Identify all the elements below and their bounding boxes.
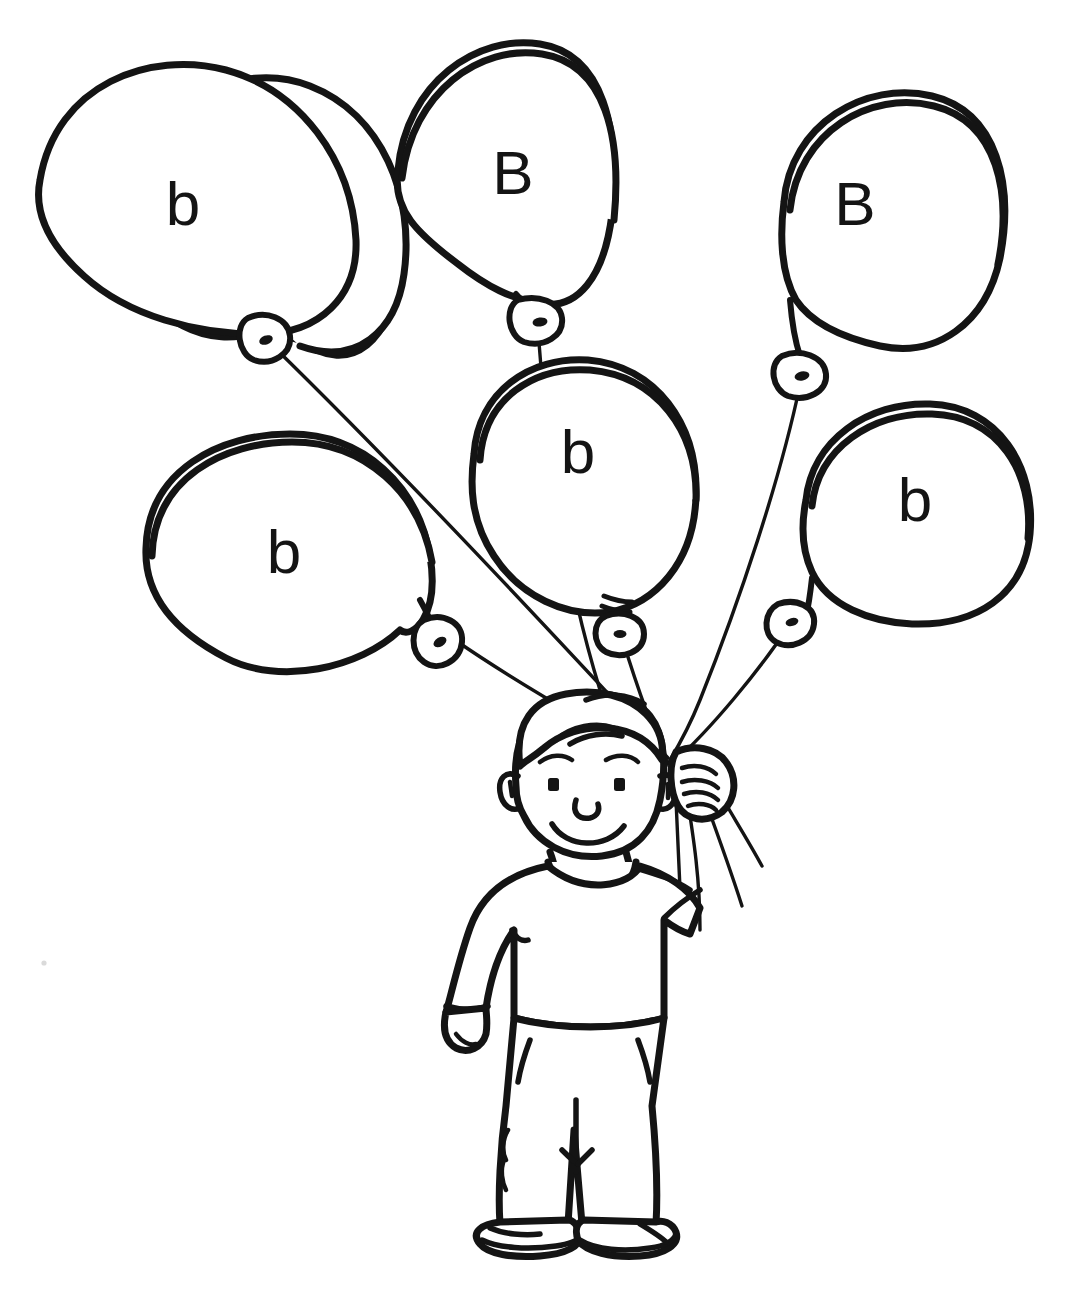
balloon-top-middle[interactable]: B: [397, 43, 616, 344]
balloon-letter: b: [898, 465, 932, 534]
sweater: [446, 866, 700, 1027]
string-right: [674, 624, 790, 762]
balloon-right[interactable]: b: [766, 404, 1030, 645]
boy-figure[interactable]: [444, 692, 762, 1256]
balloon-middle-left-knot: [414, 617, 463, 666]
balloon-top-left-knot: [239, 315, 290, 362]
balloon-top-middle-knot: [509, 298, 562, 344]
balloon-top-right[interactable]: B: [773, 93, 1004, 398]
balloon-letter: b: [561, 417, 595, 486]
scan-speck: [41, 960, 46, 965]
eye-right: [614, 778, 625, 791]
balloon-center-knot: [596, 614, 645, 655]
balloon-top-right-knot: [773, 353, 826, 398]
balloon-letter: B: [492, 138, 533, 207]
balloon-center[interactable]: b: [472, 360, 696, 655]
knot-dot: [614, 630, 627, 638]
coloring-page-canvas: b B B: [0, 0, 1076, 1297]
line-art-illustration: b B B: [0, 0, 1076, 1297]
ear-left-inner: [510, 782, 512, 796]
balloon-letter: b: [166, 169, 200, 238]
balloon-top-left[interactable]: b: [39, 64, 407, 361]
balloon-letter: b: [267, 517, 301, 586]
balloon-right-knot: [766, 602, 814, 645]
shoe-left: [476, 1220, 580, 1257]
eye-left: [548, 778, 559, 791]
balloon-letter: B: [834, 169, 875, 238]
balloon-middle-left[interactable]: b: [146, 434, 462, 672]
